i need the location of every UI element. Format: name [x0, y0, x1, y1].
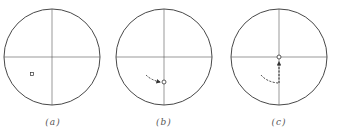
- caption-a: (a): [33, 117, 73, 127]
- caption-b: (b): [144, 117, 184, 127]
- motion-trail: [261, 75, 278, 83]
- panel-b: [116, 9, 212, 105]
- object-marker: [31, 73, 34, 76]
- object-marker: [277, 55, 281, 59]
- motion-trail: [146, 75, 160, 82]
- figure-canvas: [0, 0, 339, 131]
- object-marker: [162, 80, 166, 84]
- panel-c: [231, 9, 327, 105]
- caption-c: (c): [259, 117, 299, 127]
- panel-a: [4, 9, 100, 105]
